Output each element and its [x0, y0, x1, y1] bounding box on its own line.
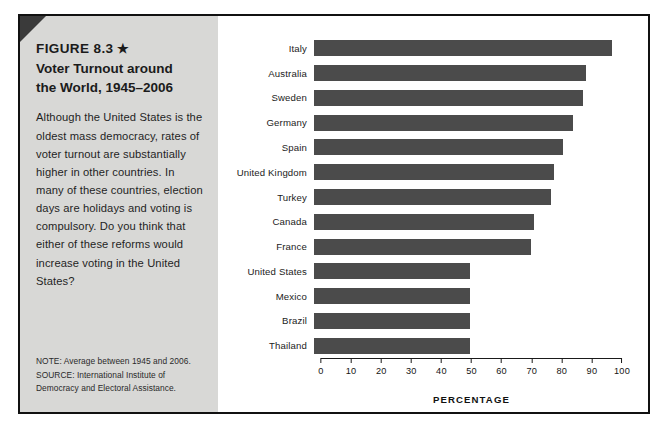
- x-tick: 10: [346, 358, 357, 376]
- bar-row: Turkey: [218, 189, 638, 205]
- bar: [314, 115, 573, 131]
- bar-row: Mexico: [218, 288, 638, 304]
- bar-track: [314, 189, 638, 205]
- x-tick-label: 0: [318, 366, 323, 376]
- bar: [314, 189, 551, 205]
- bar-row: Sweden: [218, 90, 638, 106]
- bar-track: [314, 65, 638, 81]
- bar-category-label: Thailand: [218, 340, 314, 351]
- x-tick-label: 20: [376, 366, 387, 376]
- bar: [314, 338, 470, 354]
- bar: [314, 65, 586, 81]
- bar-track: [314, 214, 638, 230]
- bar-category-label: Germany: [218, 117, 314, 128]
- bar: [314, 164, 554, 180]
- bar-category-label: United Kingdom: [218, 167, 314, 178]
- x-tick-mark: [411, 358, 412, 363]
- x-tick: 60: [496, 358, 507, 376]
- bar-track: [314, 139, 638, 155]
- bar: [314, 90, 583, 106]
- bar-category-label: United States: [218, 266, 314, 277]
- bar: [314, 313, 470, 329]
- bar-category-label: Sweden: [218, 92, 314, 103]
- bar-track: [314, 313, 638, 329]
- figure-footnotes: NOTE: Average between 1945 and 2006. SOU…: [36, 355, 204, 402]
- bar-category-label: Turkey: [218, 192, 314, 203]
- bar-rows: ItalyAustraliaSwedenGermanySpainUnited K…: [218, 32, 638, 358]
- x-axis-title: PERCENTAGE: [321, 394, 622, 405]
- bar: [314, 40, 612, 56]
- x-tick-mark: [471, 358, 472, 363]
- bar-track: [314, 239, 638, 255]
- x-tick-label: 70: [526, 366, 537, 376]
- x-tick-mark: [591, 358, 592, 363]
- star-icon: ★: [117, 41, 129, 56]
- x-tick-label: 100: [614, 366, 630, 376]
- x-tick-mark: [501, 358, 502, 363]
- x-tick: 20: [376, 358, 387, 376]
- x-axis-ticks: 0102030405060708090100: [321, 358, 622, 392]
- bar-row: Germany: [218, 115, 638, 131]
- bar-track: [314, 164, 638, 180]
- bar-row: Thailand: [218, 338, 638, 354]
- figure-title: Voter Turnout around the World, 1945–200…: [36, 60, 204, 97]
- bar-row: France: [218, 239, 638, 255]
- x-tick: 0: [318, 358, 323, 376]
- bar-row: United States: [218, 263, 638, 279]
- figure-body-text: Although the United States is the oldest…: [36, 108, 204, 289]
- x-tick-label: 10: [346, 366, 357, 376]
- bar: [314, 239, 531, 255]
- bar-row: Spain: [218, 139, 638, 155]
- figure-container: FIGURE 8.3★ Voter Turnout around the Wor…: [0, 0, 666, 430]
- bar: [314, 288, 470, 304]
- x-tick-label: 30: [406, 366, 417, 376]
- bar-track: [314, 338, 638, 354]
- chart-area: ItalyAustraliaSwedenGermanySpainUnited K…: [218, 16, 648, 412]
- x-tick-label: 50: [466, 366, 477, 376]
- bar-row: Canada: [218, 214, 638, 230]
- bar-track: [314, 288, 638, 304]
- x-tick-mark: [381, 358, 382, 363]
- x-tick: 100: [614, 358, 630, 376]
- x-tick-mark: [561, 358, 562, 363]
- bar-category-label: Spain: [218, 142, 314, 153]
- figure-number-label: FIGURE 8.3: [36, 41, 114, 56]
- x-tick-mark: [351, 358, 352, 363]
- bar-track: [314, 115, 638, 131]
- x-tick-mark: [622, 358, 623, 363]
- bar: [314, 214, 534, 230]
- figure-note: NOTE: Average between 1945 and 2006.: [36, 355, 204, 369]
- x-tick: 30: [406, 358, 417, 376]
- bar-category-label: France: [218, 241, 314, 252]
- bar-category-label: Mexico: [218, 291, 314, 302]
- bar-row: Brazil: [218, 313, 638, 329]
- x-tick-mark: [321, 358, 322, 363]
- x-tick: 50: [466, 358, 477, 376]
- figure-source: SOURCE: International Institute of Democ…: [36, 369, 204, 396]
- x-tick: 40: [436, 358, 447, 376]
- bar-track: [314, 263, 638, 279]
- bar-track: [314, 40, 638, 56]
- bar: [314, 139, 563, 155]
- x-tick-label: 40: [436, 366, 447, 376]
- x-tick: 80: [556, 358, 567, 376]
- x-tick: 90: [587, 358, 598, 376]
- figure-frame: FIGURE 8.3★ Voter Turnout around the Wor…: [18, 14, 650, 414]
- bar: [314, 263, 470, 279]
- corner-fold-decoration: [20, 16, 46, 42]
- bar-track: [314, 90, 638, 106]
- x-tick-label: 60: [496, 366, 507, 376]
- bar-row: Australia: [218, 65, 638, 81]
- plot-wrapper: ItalyAustraliaSwedenGermanySpainUnited K…: [218, 32, 638, 412]
- bar-category-label: Brazil: [218, 315, 314, 326]
- x-tick-mark: [531, 358, 532, 363]
- bar-row: United Kingdom: [218, 164, 638, 180]
- caption-panel: FIGURE 8.3★ Voter Turnout around the Wor…: [20, 16, 218, 412]
- bar-row: Italy: [218, 40, 638, 56]
- x-tick-label: 90: [587, 366, 598, 376]
- figure-number: FIGURE 8.3★: [36, 40, 204, 58]
- bar-category-label: Italy: [218, 43, 314, 54]
- x-tick: 70: [526, 358, 537, 376]
- x-tick-mark: [441, 358, 442, 363]
- x-tick-label: 80: [556, 366, 567, 376]
